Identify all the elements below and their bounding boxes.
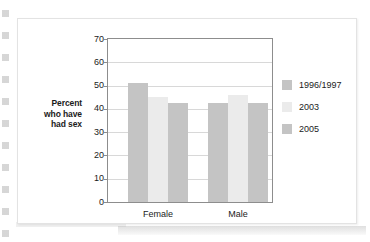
chart-card: Percent who have had sex 010203040506070… [17, 18, 357, 224]
y-tick-mark [104, 132, 107, 133]
legend-label: 2003 [299, 102, 319, 112]
bar-male-2003 [228, 95, 248, 202]
y-tick-mark [104, 202, 107, 203]
legend-label: 2005 [299, 124, 319, 134]
legend-item-2005[interactable]: 2005 [282, 118, 356, 140]
y-tick-label: 70 [82, 35, 104, 44]
scan-artifact-left-edge [2, 4, 9, 238]
y-tick-label: 30 [82, 128, 104, 137]
y-tick-mark [104, 109, 107, 110]
legend-item-1996-1997[interactable]: 1996/1997 [282, 74, 356, 96]
legend-item-2003[interactable]: 2003 [282, 96, 356, 118]
y-tick-mark [104, 155, 107, 156]
bar-female-1996-1997 [128, 83, 148, 202]
bar-male-2005 [248, 103, 268, 202]
y-axis-label-line-2: who have [20, 109, 82, 120]
bar-female-2003 [148, 97, 168, 202]
y-tick-mark [104, 86, 107, 87]
bar-chart-figure: Percent who have had sex 010203040506070… [18, 19, 356, 223]
legend-label: 1996/1997 [299, 80, 342, 90]
y-axis-tick-labels: 010203040506070 [78, 19, 104, 223]
y-tick-mark [104, 179, 107, 180]
y-tick-label: 50 [82, 81, 104, 90]
bar-female-2005 [168, 103, 188, 202]
y-tick-label: 10 [82, 174, 104, 183]
legend-swatch-icon [282, 102, 292, 112]
bar-male-1996-1997 [208, 103, 228, 202]
page-background: Percent who have had sex 010203040506070… [0, 0, 370, 242]
bars-layer [108, 39, 272, 202]
x-axis-label-female: Female [118, 209, 198, 219]
y-axis-label-line-3: had sex [20, 119, 82, 130]
legend-swatch-icon [282, 124, 292, 134]
scan-artifact-bottom-shadow [118, 226, 366, 235]
y-tick-label: 20 [82, 151, 104, 160]
y-axis-label: Percent who have had sex [20, 98, 82, 130]
y-tick-label: 40 [82, 104, 104, 113]
legend-swatch-icon [282, 80, 292, 90]
chart-legend: 1996/199720032005 [282, 74, 356, 140]
y-tick-label: 60 [82, 58, 104, 67]
x-axis-label-male: Male [198, 209, 278, 219]
y-tick-label: 0 [82, 198, 104, 207]
y-axis-label-line-1: Percent [20, 98, 82, 109]
y-tick-mark [104, 62, 107, 63]
y-tick-mark [104, 39, 107, 40]
